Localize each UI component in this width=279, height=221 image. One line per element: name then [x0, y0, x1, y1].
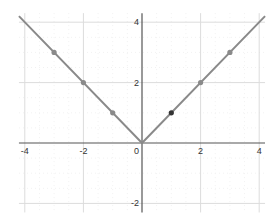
y-tick-label: 4 — [134, 17, 139, 27]
origin-label: 0 — [134, 146, 139, 156]
y-tick-label: -2 — [131, 198, 139, 208]
data-point[interactable] — [198, 80, 203, 85]
tick-labels: -4-224-2240 — [21, 17, 262, 208]
data-point[interactable] — [110, 110, 115, 115]
x-tick-label: -2 — [79, 146, 87, 156]
y-tick-label: 2 — [134, 78, 139, 88]
data-point[interactable] — [227, 50, 232, 55]
x-tick-label: 4 — [257, 146, 262, 156]
data-point[interactable] — [52, 50, 57, 55]
x-tick-label: -4 — [21, 146, 29, 156]
x-tick-label: 2 — [198, 146, 203, 156]
plot-area: -4-224-2240 — [0, 0, 279, 221]
data-point[interactable] — [81, 80, 86, 85]
data-point[interactable] — [169, 110, 174, 115]
